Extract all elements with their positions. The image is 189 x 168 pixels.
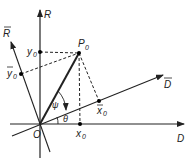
- point-y0: [38, 50, 42, 54]
- label-origin: O: [33, 129, 41, 140]
- svg-text:y: y: [6, 68, 13, 79]
- svg-text:0: 0: [103, 110, 107, 117]
- label-y0: y 0: [26, 46, 37, 58]
- svg-text:x: x: [75, 128, 82, 139]
- label-psi: ψ: [52, 100, 59, 110]
- svg-text:0: 0: [85, 44, 89, 51]
- projection-x0: [79, 53, 80, 124]
- svg-text:0: 0: [13, 73, 17, 80]
- svg-text:y: y: [26, 46, 33, 57]
- psi-arc: [58, 91, 66, 110]
- r-bar-axis: [11, 42, 50, 152]
- svg-text:0: 0: [82, 133, 86, 140]
- svg-text:R: R: [3, 28, 10, 39]
- svg-text:P: P: [78, 38, 85, 49]
- d-bar-axis: [12, 75, 163, 136]
- label-d: D: [177, 133, 184, 144]
- point-ybar0: [19, 72, 23, 76]
- projection-xbar0: [79, 53, 99, 101]
- label-theta: θ: [63, 114, 68, 124]
- svg-text:0: 0: [33, 51, 37, 58]
- label-r-bar: R: [3, 27, 11, 39]
- point-x0: [78, 122, 82, 126]
- svg-text:x: x: [96, 105, 103, 116]
- label-ybar0: y 0: [6, 67, 17, 80]
- label-p0: P 0: [78, 38, 89, 51]
- svg-text:D: D: [164, 79, 171, 90]
- point-p0: [77, 51, 81, 55]
- label-xbar0: x 0: [96, 105, 107, 117]
- coordinate-rotation-diagram: R R D D O P 0 y 0 y 0 x 0 x 0 θ ψ: [0, 0, 189, 168]
- label-d-bar: D: [164, 78, 172, 90]
- point-xbar0: [97, 99, 101, 103]
- projection-y0: [40, 52, 79, 53]
- label-r: R: [44, 9, 51, 20]
- vector-op0: [40, 53, 79, 124]
- label-x0: x 0: [75, 128, 86, 140]
